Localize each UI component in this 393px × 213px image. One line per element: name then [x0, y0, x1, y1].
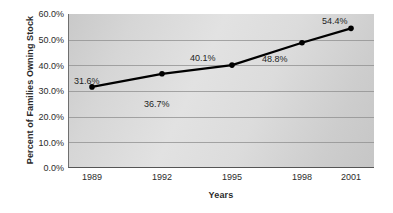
y-tick-label: 0.0% [24, 163, 64, 173]
data-label: 31.6% [74, 76, 100, 86]
y-tick-label: 30.0% [24, 86, 64, 96]
x-axis-tick-labels: 1989 1992 1995 1998 2001 [68, 172, 374, 186]
plot-area: 31.6% 36.7% 40.1% 48.8% 54.4% [68, 14, 374, 168]
data-label: 48.8% [262, 54, 288, 64]
data-point-marker [229, 62, 235, 68]
data-point-marker [299, 40, 305, 46]
series-line-chart [68, 14, 374, 168]
data-label: 36.7% [144, 99, 170, 109]
x-tick-label: 1989 [82, 172, 102, 182]
y-axis-tick-labels: 60.0% 50.0% 40.0% 30.0% 20.0% 10.0% 0.0% [22, 0, 64, 213]
x-tick-label: 1995 [222, 172, 242, 182]
chart-figure: Percent of Families Owning Stock 60.0% 5… [0, 0, 393, 213]
x-tick-label: 2001 [341, 172, 361, 182]
series-polyline [92, 28, 351, 87]
y-tick-label: 40.0% [24, 61, 64, 71]
x-tick-label: 1992 [152, 172, 172, 182]
y-tick-label: 50.0% [24, 35, 64, 45]
data-label: 54.4% [322, 16, 348, 26]
y-tick-label: 10.0% [24, 138, 64, 148]
data-label: 40.1% [190, 53, 216, 63]
y-tick-label: 20.0% [24, 112, 64, 122]
x-tick-label: 1998 [292, 172, 312, 182]
data-point-marker [348, 26, 354, 32]
x-axis-title: Years [68, 190, 374, 200]
data-point-marker [159, 71, 165, 77]
y-tick-label: 60.0% [24, 9, 64, 19]
